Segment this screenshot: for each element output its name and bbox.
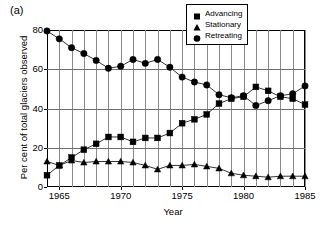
data-point: [93, 141, 99, 147]
data-point: [105, 65, 111, 71]
plot-area: 020406080 19651970197519801985: [47, 30, 305, 187]
data-point: [216, 92, 222, 98]
data-point: [228, 170, 234, 176]
data-point: [44, 28, 50, 34]
data-point: [155, 135, 161, 141]
gridline-vertical: [305, 30, 306, 187]
data-point: [179, 74, 185, 80]
data-point: [93, 57, 99, 63]
data-point: [290, 91, 296, 97]
chart-figure: (a) Per cent of total glaciers observed …: [0, 0, 332, 232]
data-point: [204, 82, 210, 88]
data-point: [167, 130, 173, 136]
panel-label: (a): [10, 4, 23, 17]
chart-legend: Advancing Stationary Retreating: [186, 4, 248, 45]
series-layer: [47, 30, 305, 187]
data-point: [191, 79, 197, 85]
x-tick-label: 1980: [233, 191, 254, 201]
data-point: [142, 60, 148, 66]
x-tick-mark: [305, 187, 306, 190]
data-point: [106, 134, 112, 140]
data-point: [253, 84, 259, 90]
data-point: [81, 50, 87, 56]
data-point: [265, 97, 271, 103]
data-point: [44, 158, 50, 164]
y-tick-label: 0: [38, 182, 43, 192]
legend-item-retreating: Retreating: [191, 30, 242, 41]
data-point: [191, 161, 197, 167]
y-tick-mark: [44, 187, 47, 188]
data-point: [302, 83, 308, 89]
legend-label: Advancing: [205, 9, 242, 19]
legend-label: Stationary: [205, 20, 241, 30]
data-point: [240, 93, 246, 99]
legend-label: Retreating: [205, 31, 242, 41]
data-point: [179, 120, 185, 126]
x-tick-label: 1965: [49, 191, 70, 201]
data-point: [118, 63, 124, 69]
data-point: [154, 56, 160, 62]
x-tick-label: 1985: [294, 191, 315, 201]
data-point: [302, 102, 308, 108]
data-point: [68, 44, 74, 50]
data-point: [118, 134, 124, 140]
data-point: [228, 95, 234, 101]
data-point: [253, 102, 259, 108]
x-tick-mark: [59, 187, 60, 190]
series-stationary: [44, 157, 308, 179]
data-point: [277, 93, 283, 99]
triangle-marker-icon: [191, 19, 203, 30]
data-point: [167, 64, 173, 70]
x-axis-label: Year: [40, 206, 306, 217]
data-point: [192, 116, 198, 122]
data-point: [265, 88, 271, 94]
y-tick-label: 80: [32, 25, 43, 35]
data-point: [142, 135, 148, 141]
x-tick-label: 1975: [172, 191, 193, 201]
data-point: [130, 56, 136, 62]
series-retreating: [44, 28, 308, 109]
square-marker-icon: [191, 8, 203, 19]
data-point: [216, 101, 222, 107]
legend-item-stationary: Stationary: [191, 19, 242, 30]
series-line: [47, 31, 305, 106]
x-tick-mark: [244, 187, 245, 190]
y-tick-label: 60: [32, 64, 43, 74]
x-tick-label: 1970: [110, 191, 131, 201]
data-point: [130, 139, 136, 145]
x-tick-mark: [182, 187, 183, 190]
data-point: [56, 36, 62, 42]
y-axis-label: Per cent of total glaciers observed: [18, 23, 29, 193]
x-tick-mark: [121, 187, 122, 190]
data-point: [81, 147, 87, 153]
legend-item-advancing: Advancing: [191, 8, 242, 19]
circle-marker-icon: [191, 30, 203, 41]
y-tick-label: 20: [32, 143, 43, 153]
y-tick-label: 40: [32, 104, 43, 114]
data-point: [204, 111, 210, 117]
data-point: [44, 172, 50, 178]
